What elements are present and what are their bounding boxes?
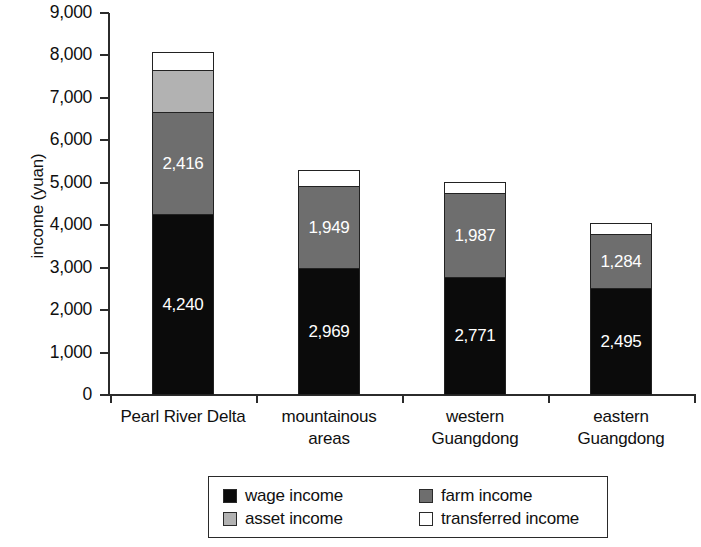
x-axis-tick-label-line: areas <box>256 428 402 450</box>
bar-segment-farm-income[interactable]: 1,949 <box>299 187 359 269</box>
x-axis-tick-label-line: mountainous <box>256 406 402 428</box>
bar-segment-wage-income[interactable]: 2,495 <box>591 289 651 394</box>
stacked-bar[interactable]: 2,4951,284 <box>590 223 652 395</box>
bar-group: 2,7711,987 <box>444 13 506 395</box>
bar-segment-wage-income[interactable]: 2,771 <box>445 278 505 395</box>
y-axis-tick-labels: 01,0002,0003,0004,0005,0006,0007,0008,00… <box>0 0 108 420</box>
x-axis-tick-mark <box>402 394 404 403</box>
bar-group: 2,4951,284 <box>590 13 652 395</box>
x-axis-tick-label-line: western <box>402 406 548 428</box>
legend-swatch-wage-income <box>223 489 237 503</box>
y-axis-tick-label: 0 <box>0 384 92 405</box>
x-axis-tick-mark <box>256 394 258 403</box>
y-axis-tick-label: 4,000 <box>0 214 92 235</box>
bar-segment-value-label: 1,949 <box>308 219 349 236</box>
legend-swatch-asset-income <box>223 512 237 526</box>
bar-segment-value-label: 2,416 <box>162 155 203 172</box>
x-axis-tick-label: Pearl River Delta <box>110 406 256 428</box>
stacked-bar[interactable]: 4,2402,416 <box>152 52 214 395</box>
x-axis-tick-label-line: eastern <box>548 406 694 428</box>
plot-area: 4,2402,4162,9691,9492,7711,9872,4951,284 <box>110 13 694 395</box>
legend-swatch-transferred-income <box>419 512 433 526</box>
bar-segment-asset-income[interactable] <box>153 71 213 114</box>
legend-item-wage-income[interactable]: wage income <box>223 486 419 506</box>
legend-item-farm-income[interactable]: farm income <box>419 486 597 506</box>
legend-label-farm-income: farm income <box>441 486 532 506</box>
bar-segment-value-label: 4,240 <box>162 296 203 313</box>
x-axis-tick-label-line: Guangdong <box>548 428 694 450</box>
bar-group: 4,2402,416 <box>152 13 214 395</box>
y-axis-tick-label: 6,000 <box>0 129 92 150</box>
x-axis-tick-mark <box>110 394 112 403</box>
bar-segment-transferred-income[interactable] <box>445 183 505 194</box>
bar-segment-farm-income[interactable]: 1,987 <box>445 194 505 278</box>
bar-segment-value-label: 2,495 <box>600 333 641 350</box>
y-axis-tick-label: 3,000 <box>0 257 92 278</box>
x-axis-tick-label: westernGuangdong <box>402 406 548 450</box>
stacked-bar[interactable]: 2,9691,949 <box>298 170 360 395</box>
x-axis-tick-label-line: Guangdong <box>402 428 548 450</box>
stacked-bar[interactable]: 2,7711,987 <box>444 182 506 395</box>
x-axis-tick-label-line: Pearl River Delta <box>110 406 256 428</box>
bar-segment-transferred-income[interactable] <box>591 224 651 236</box>
y-axis-tick-label: 5,000 <box>0 172 92 193</box>
y-axis-tick-label: 7,000 <box>0 87 92 108</box>
x-axis-tick-mark <box>694 394 696 403</box>
x-axis-tick-labels: Pearl River Deltamountainousareaswestern… <box>110 406 694 464</box>
bar-segment-value-label: 2,771 <box>454 327 495 344</box>
bar-segment-farm-income[interactable]: 1,284 <box>591 235 651 289</box>
y-axis-tick-label: 8,000 <box>0 45 92 66</box>
bar-segment-farm-income[interactable]: 2,416 <box>153 113 213 215</box>
bar-segment-value-label: 1,284 <box>600 253 641 270</box>
bar-segment-value-label: 1,987 <box>454 227 495 244</box>
bar-segment-value-label: 2,969 <box>308 323 349 340</box>
y-axis-tick-label: 1,000 <box>0 342 92 363</box>
legend-item-asset-income[interactable]: asset income <box>223 509 419 529</box>
legend-swatch-farm-income <box>419 489 433 503</box>
legend-item-transferred-income[interactable]: transferred income <box>419 509 597 529</box>
bar-segment-transferred-income[interactable] <box>299 171 359 187</box>
legend-label-wage-income: wage income <box>245 486 343 506</box>
y-axis-tick-label: 2,000 <box>0 299 92 320</box>
legend-label-asset-income: asset income <box>245 509 343 529</box>
bar-segment-transferred-income[interactable] <box>153 53 213 70</box>
legend-label-transferred-income: transferred income <box>441 509 579 529</box>
y-axis-tick-label: 9,000 <box>0 2 92 23</box>
x-axis-tick-mark <box>548 394 550 403</box>
x-axis-tick-label: easternGuangdong <box>548 406 694 450</box>
stacked-bar-chart: income (yuan) 01,0002,0003,0004,0005,000… <box>0 0 701 547</box>
x-axis-tick-label: mountainousareas <box>256 406 402 450</box>
bar-segment-wage-income[interactable]: 2,969 <box>299 269 359 394</box>
bar-group: 2,9691,949 <box>298 13 360 395</box>
chart-legend: wage income farm income asset income tra… <box>208 476 608 538</box>
bar-segment-wage-income[interactable]: 4,240 <box>153 215 213 394</box>
